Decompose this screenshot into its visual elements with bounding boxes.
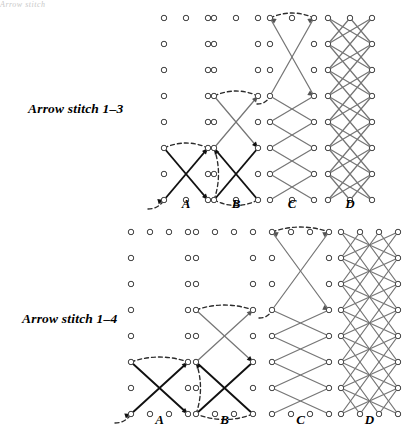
grid-dot (255, 67, 260, 72)
grid-dot (128, 359, 133, 364)
grid-dot (338, 307, 343, 312)
grid-dot (185, 385, 190, 390)
stitch-arrowhead (322, 305, 329, 310)
lattice-leg (341, 362, 360, 388)
grid-dot (250, 359, 255, 364)
grid-dot (357, 229, 362, 234)
dot-grid (193, 229, 255, 416)
grid-dot (211, 93, 216, 98)
grid-dot (255, 41, 260, 46)
grid-dot (369, 197, 374, 202)
stitch-leg (164, 148, 208, 200)
grid-dot (161, 145, 166, 150)
lattice-leg (328, 18, 372, 44)
guide-arc-top (214, 91, 258, 96)
grid-dot (161, 197, 166, 202)
stitch-leg (272, 232, 329, 310)
guide-arc-top (270, 13, 314, 18)
grid-dot (255, 93, 260, 98)
grid-dot (288, 411, 293, 416)
grid-dot (311, 93, 316, 98)
stitch-arrowhead (196, 362, 201, 369)
grid-dot (250, 255, 255, 260)
lattice-leg (341, 284, 398, 310)
grid-dot (269, 411, 274, 416)
lattice-leg (328, 44, 372, 70)
grid-dot (338, 411, 343, 416)
grid-dot (205, 145, 210, 150)
grid-dot (395, 229, 400, 234)
grid-dot (211, 171, 216, 176)
lattice-leg (270, 122, 314, 148)
lattice-leg (328, 148, 372, 174)
lattice-leg (379, 336, 398, 362)
grid-dot (369, 41, 374, 46)
grid-dot (128, 229, 133, 234)
grid-dot (269, 385, 274, 390)
stitch-arrowhead (247, 310, 253, 316)
lattice-leg (350, 122, 372, 148)
dot-grid (211, 15, 260, 202)
grid-dot (326, 307, 331, 312)
lattice-leg (328, 44, 350, 70)
grid-dot (311, 171, 316, 176)
grid-dot (166, 411, 171, 416)
lattice-leg (328, 18, 350, 44)
grid-dot (255, 119, 260, 124)
grid-dot (205, 41, 210, 46)
lattice-leg (328, 70, 350, 96)
lattice-leg (360, 362, 379, 388)
grid-dot (185, 333, 190, 338)
grid-dot (338, 307, 343, 312)
grid-dot (395, 281, 400, 286)
grid-dot (255, 171, 260, 176)
panel-letter-b: B (220, 412, 229, 428)
panel-row-1-3-D (325, 15, 374, 202)
grid-dot (161, 119, 166, 124)
lattice-leg (360, 232, 379, 258)
lattice-leg (379, 258, 398, 284)
stitch-leg (270, 18, 314, 96)
grid-dot (395, 307, 400, 312)
lattice-leg (350, 96, 372, 122)
grid-dot (325, 67, 330, 72)
grid-dot (326, 281, 331, 286)
grid-dot (161, 145, 166, 150)
grid-dot (231, 229, 236, 234)
panel-row-1-3-B (211, 15, 260, 205)
grid-dot (325, 119, 330, 124)
grid-dot (250, 307, 255, 312)
grid-dot (326, 411, 331, 416)
grid-dot (250, 255, 255, 260)
lattice-leg (360, 258, 379, 284)
grid-dot (267, 15, 272, 20)
panel-letter-c: C (296, 412, 305, 428)
grid-dot (395, 333, 400, 338)
stitch-arrowhead (322, 232, 329, 237)
grid-dot (307, 411, 312, 416)
lattice-leg (341, 336, 360, 362)
grid-dot (128, 255, 133, 260)
lattice-leg (272, 388, 329, 414)
grid-dot (267, 93, 272, 98)
grid-dot (311, 15, 316, 20)
stitch-leg (214, 96, 258, 148)
grid-dot (269, 255, 274, 260)
grid-dot (326, 229, 331, 234)
grid-dot (311, 67, 316, 72)
lattice-leg (328, 122, 372, 148)
diagram-canvas: Arrow stitch ABCDArrow stitch 1–3ABCDArr… (0, 0, 418, 442)
stitch-arrowhead (124, 413, 131, 418)
grid-dot (325, 171, 330, 176)
stitch-arrowhead (272, 232, 279, 237)
lattice-leg (341, 310, 398, 336)
grid-dot (395, 255, 400, 260)
grid-dot (288, 411, 293, 416)
stitch-arrowhead (182, 362, 188, 368)
lattice-leg (379, 232, 398, 258)
grid-dot (250, 359, 255, 364)
panel-row-1-4-B (193, 229, 255, 419)
grid-dot (128, 385, 133, 390)
lattice-leg (341, 336, 398, 362)
grid-dot (128, 307, 133, 312)
